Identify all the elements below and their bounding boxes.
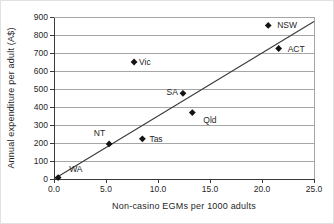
- y-tick-label: 100: [34, 156, 48, 166]
- y-tick-label: 800: [34, 30, 48, 40]
- y-tick-label: 200: [34, 138, 48, 148]
- data-point-label-act: ACT: [288, 44, 305, 54]
- data-point-label-nt: NT: [94, 128, 105, 138]
- data-point-tas: [139, 135, 146, 142]
- data-point-label-sa: SA: [167, 87, 179, 97]
- scatter-plot-canvas: 01002003004005006007008009000.05.010.015…: [1, 1, 334, 224]
- x-tick-label: 5.0: [100, 184, 112, 194]
- x-tick-label: 10.0: [150, 184, 167, 194]
- y-tick-label: 900: [34, 12, 48, 22]
- data-point-act: [275, 45, 282, 52]
- data-point-label-vic: Vic: [139, 57, 151, 67]
- data-point-qld: [189, 109, 196, 116]
- data-point-sa: [180, 90, 187, 97]
- y-tick-label: 400: [34, 102, 48, 112]
- data-point-nsw: [265, 22, 272, 29]
- x-tick-label: 20.0: [254, 184, 271, 194]
- data-point-label-qld: Qld: [203, 115, 217, 125]
- data-point-vic: [131, 59, 138, 66]
- data-point-label-tas: Tas: [149, 134, 162, 144]
- x-tick-label: 15.0: [202, 184, 219, 194]
- scatter-chart-figure: 01002003004005006007008009000.05.010.015…: [0, 0, 334, 224]
- data-point-label-wa: WA: [69, 164, 83, 174]
- y-tick-label: 700: [34, 48, 48, 58]
- y-tick-label: 300: [34, 120, 48, 130]
- y-axis-label: Annual expenditure per adult (A$): [6, 13, 18, 183]
- x-axis-label: Non-casino EGMs per 1000 adults: [54, 201, 314, 211]
- y-tick-label: 500: [34, 84, 48, 94]
- x-tick-label: 25.0: [306, 184, 323, 194]
- y-tick-label: 600: [34, 66, 48, 76]
- data-point-nt: [106, 141, 113, 148]
- trend-line: [54, 22, 314, 180]
- data-point-label-nsw: NSW: [277, 20, 297, 30]
- x-tick-label: 0.0: [48, 184, 60, 194]
- y-tick-label: 0: [43, 174, 48, 184]
